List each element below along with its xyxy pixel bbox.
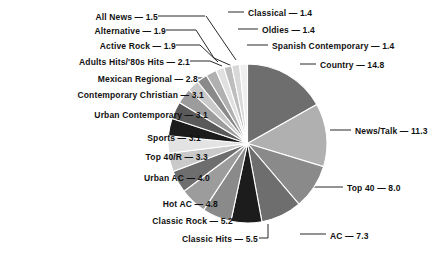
label-country: Country — 14.8 — [320, 60, 384, 70]
label-sports: Sports — 3.1 — [147, 133, 201, 143]
label-classic-hits: Classic Hits — 5.5 — [182, 234, 258, 244]
label-urban-contemporary: Urban Contemporary — 3.1 — [94, 110, 208, 120]
label-top-40: Top 40 — 8.0 — [347, 183, 401, 193]
label-top-40-r: Top 40/R — 3.3 — [146, 152, 208, 162]
label-urban-ac: Urban AC — 4.0 — [144, 173, 210, 183]
label-classic-rock: Classic Rock — 5.2 — [152, 216, 233, 226]
label-contemporary-christian: Contemporary Christian — 3.1 — [77, 90, 204, 100]
label-mexican-regional: Mexican Regional — 2.8 — [98, 74, 198, 84]
leader-line — [214, 58, 232, 66]
label-active-rock: Active Rock — 1.9 — [100, 41, 176, 51]
pie-chart-figure: All News — 1.5 Alternative — 1.9 Active … — [0, 0, 448, 256]
label-adult-hits-80s-hits: Adults Hits/'80s Hits — 2.1 — [79, 57, 190, 67]
label-news-talk: News/Talk — 11.3 — [355, 126, 428, 136]
label-alternative: Alternative — 1.9 — [94, 26, 166, 36]
leader-line — [259, 224, 268, 238]
label-classical: Classical — 1.4 — [248, 8, 312, 18]
label-hot-ac: Hot AC — 4.8 — [163, 199, 218, 209]
leader-line — [206, 16, 236, 60]
label-oldies: Oldies — 1.4 — [262, 25, 315, 35]
label-all-news: All News — 1.5 — [95, 12, 158, 22]
label-spanish-contemporary: Spanish Contemporary — 1.4 — [272, 41, 394, 51]
label-ac: AC — 7.3 — [330, 231, 369, 241]
